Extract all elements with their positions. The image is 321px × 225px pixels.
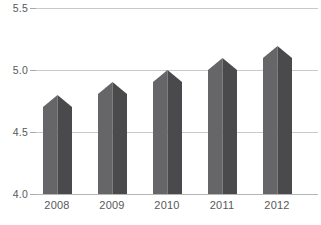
bar-right-face xyxy=(223,58,238,194)
x-axis-label-2009: 2009 xyxy=(92,199,132,211)
x-axis-label-2011: 2011 xyxy=(202,199,242,211)
bar-2010[interactable] xyxy=(153,70,182,194)
x-axis-label-2012: 2012 xyxy=(257,199,297,211)
x-axis-label-2008: 2008 xyxy=(37,199,77,211)
y-axis-label-5-0: 5.0 xyxy=(2,65,28,76)
bar-chart: 5.5 5.0 4.5 4.0 2008 2009 2010 2011 2012 xyxy=(0,0,321,225)
bar-2011[interactable] xyxy=(208,58,237,194)
y-axis-label-4-0: 4.0 xyxy=(2,189,28,200)
bar-left-face xyxy=(43,95,58,194)
bar-left-face xyxy=(153,70,168,194)
bar-right-face xyxy=(168,70,183,194)
bar-2008[interactable] xyxy=(43,95,72,194)
bar-2012[interactable] xyxy=(263,46,292,194)
x-axis-label-2010: 2010 xyxy=(147,199,187,211)
bar-right-face xyxy=(58,95,73,194)
y-axis-label-5-5: 5.5 xyxy=(2,3,28,14)
bar-2009[interactable] xyxy=(98,82,127,194)
y-axis-tick-marks xyxy=(30,9,36,195)
y-axis-label-4-5: 4.5 xyxy=(2,127,28,138)
bar-left-face xyxy=(208,58,223,194)
bar-right-face xyxy=(278,46,293,194)
bar-left-face xyxy=(263,46,278,194)
bar-left-face xyxy=(98,82,113,194)
chart-plot-area xyxy=(0,0,321,225)
bar-right-face xyxy=(113,82,128,194)
